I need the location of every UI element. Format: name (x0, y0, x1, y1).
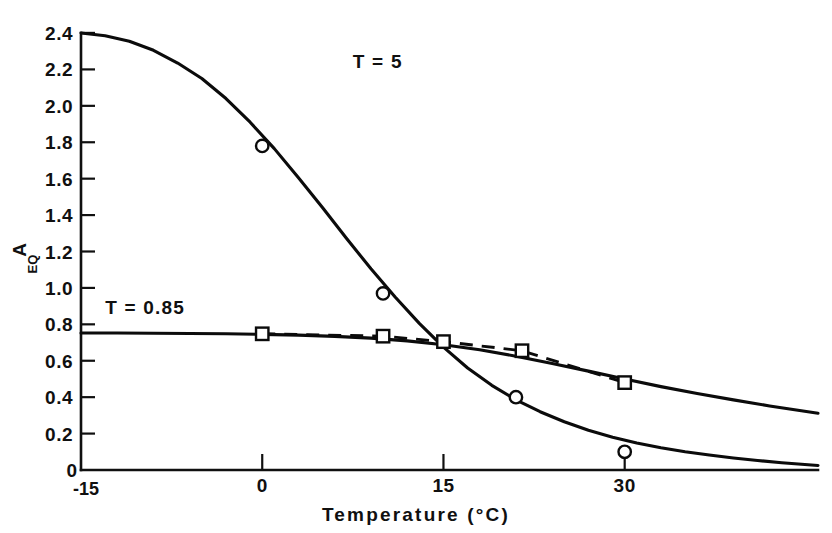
curve-annotations: T = 5T = 0.85 (105, 51, 403, 319)
x-tick-label: 15 (432, 475, 454, 496)
y-axis-title: A EQ (9, 243, 40, 274)
data-point-circle (618, 446, 630, 458)
y-tick-label: 2.4 (45, 23, 73, 44)
y-tick-label: 2.0 (45, 96, 73, 117)
data-point-square (516, 345, 528, 357)
series-curve (81, 33, 818, 465)
data-point-square (618, 376, 630, 388)
y-tick-label: 0.8 (45, 314, 73, 335)
y-tick-label: 0.4 (45, 387, 73, 408)
data-point-circle (510, 391, 522, 403)
x-tick-label: 30 (614, 475, 636, 496)
y-tick-label: 2.2 (45, 59, 73, 80)
y-origin-label: 0 (66, 460, 77, 481)
y-tick-label: 1.0 (45, 278, 73, 299)
y-axis-ticks: 0.20.40.60.81.01.21.41.61.82.02.22.4 (45, 23, 95, 445)
annotation-t085: T = 0.85 (105, 297, 185, 318)
data-point-square (256, 328, 268, 340)
y-tick-label: 1.2 (45, 242, 73, 263)
data-point-square (437, 335, 449, 347)
axes-group (81, 33, 818, 470)
data-curves (81, 33, 818, 465)
y-tick-label: 0.6 (45, 351, 73, 372)
data-point-circle (256, 140, 268, 152)
data-point-circle (377, 287, 389, 299)
y-tick-label: 1.6 (45, 169, 73, 190)
chart-canvas: 0.20.40.60.81.01.21.41.61.82.02.22.4 015… (0, 0, 832, 533)
x-axis-title: Temperature (°C) (322, 504, 510, 525)
y-tick-label: 1.4 (45, 205, 73, 226)
y-tick-label: 1.8 (45, 132, 73, 153)
data-point-square (377, 330, 389, 342)
x-tick-label: 0 (257, 475, 268, 496)
annotation-t5: T = 5 (353, 51, 403, 72)
data-markers (256, 140, 631, 458)
x-axis-ticks: 01530 (257, 454, 636, 496)
y-tick-label: 0.2 (45, 424, 73, 445)
figure-root: 0.20.40.60.81.01.21.41.61.82.02.22.4 015… (0, 0, 832, 533)
x-axis-start-label: -15 (73, 479, 99, 499)
y-axis-title-subscript: EQ (25, 255, 40, 274)
